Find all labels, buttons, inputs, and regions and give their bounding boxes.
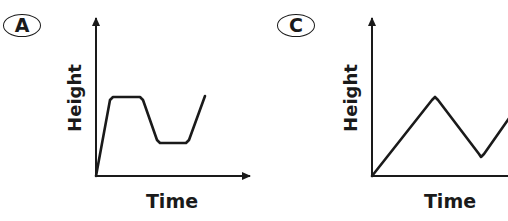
graph-a-plot	[0, 0, 254, 221]
height-curve	[96, 96, 205, 176]
graph-c-plot	[254, 0, 508, 221]
graph-c-panel: C Height Time	[254, 0, 508, 221]
y-axis-label: Height	[64, 58, 86, 138]
x-axis-label: Time	[410, 190, 490, 212]
x-axis-label: Time	[132, 190, 212, 212]
y-axis-label: Height	[340, 58, 362, 138]
graph-a-panel: A Height Time	[0, 0, 254, 221]
height-curve	[372, 97, 508, 176]
